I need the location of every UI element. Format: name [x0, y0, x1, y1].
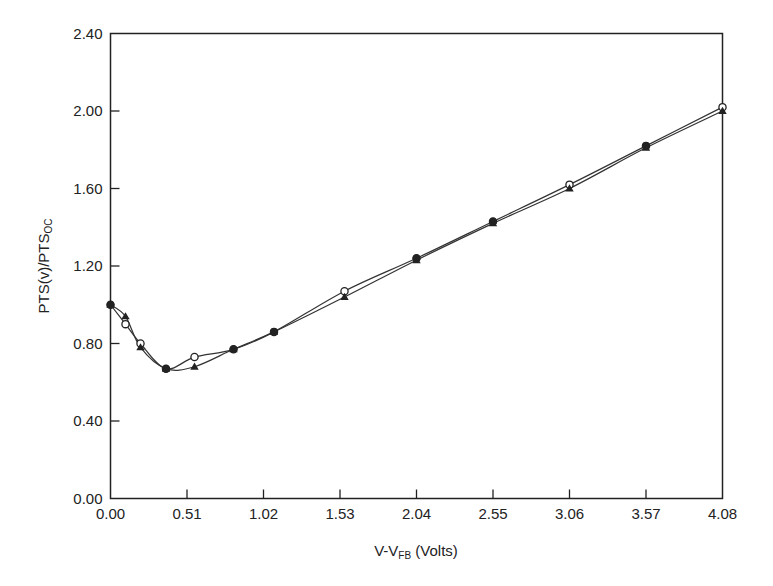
data-point-shared	[230, 346, 238, 354]
plot-frame	[111, 34, 723, 499]
x-tick-label: 0.51	[172, 505, 201, 522]
data-point-shared	[270, 328, 278, 336]
y-axis-ticks: 0.000.400.801.201.602.002.40	[73, 25, 119, 507]
data-point-shared	[413, 254, 421, 262]
x-tick-label: 2.04	[402, 505, 431, 522]
x-tick-label: 3.06	[555, 505, 584, 522]
y-tick-label: 0.40	[73, 412, 102, 429]
x-tick-label: 1.02	[249, 505, 278, 522]
x-axis-ticks: 0.000.511.021.532.042.553.063.574.08	[96, 490, 737, 522]
series-line-2	[111, 111, 723, 370]
y-tick-label: 0.00	[73, 490, 102, 507]
y-axis-title: PTS(v)/PTSOC	[35, 218, 54, 313]
x-tick-label: 1.53	[325, 505, 354, 522]
series-line-1	[111, 107, 723, 369]
x-tick-label: 2.55	[478, 505, 507, 522]
data-point-shared	[162, 365, 170, 373]
y-tick-label: 2.40	[73, 25, 102, 42]
y-tick-label: 1.60	[73, 180, 102, 197]
y-tick-label: 0.80	[73, 335, 102, 352]
series-markers	[106, 104, 726, 373]
x-axis-title: V-VFB (Volts)	[374, 542, 458, 561]
y-tick-label: 1.20	[73, 257, 102, 274]
data-point-shared	[642, 142, 650, 150]
x-tick-label: 0.00	[96, 505, 125, 522]
x-tick-label: 3.57	[631, 505, 660, 522]
series-lines	[111, 107, 723, 370]
data-point-circle	[122, 321, 129, 328]
data-point-circle	[191, 353, 198, 360]
chart: 0.000.511.021.532.042.553.063.574.08 0.0…	[0, 0, 773, 586]
data-point-shared	[107, 301, 115, 309]
x-tick-label: 4.08	[708, 505, 737, 522]
data-point-shared	[489, 218, 497, 226]
y-tick-label: 2.00	[73, 102, 102, 119]
